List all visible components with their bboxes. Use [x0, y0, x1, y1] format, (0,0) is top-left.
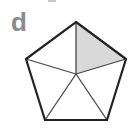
pentagon-diagram	[0, 0, 133, 135]
